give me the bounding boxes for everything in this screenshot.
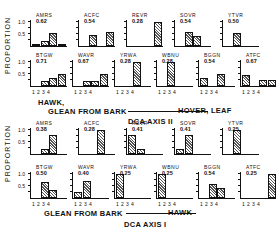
y-tick bbox=[28, 21, 31, 22]
y-tick bbox=[76, 39, 79, 40]
y-tick bbox=[28, 141, 31, 142]
bar-2 bbox=[41, 149, 49, 154]
y-tick bbox=[28, 79, 31, 80]
species-score: 0.28 bbox=[162, 58, 173, 64]
y-tick bbox=[154, 173, 157, 174]
y-tick bbox=[196, 191, 199, 192]
species-score: 0.62 bbox=[36, 18, 47, 24]
y-tick bbox=[28, 173, 31, 174]
y-tick-label: 0.5 bbox=[18, 71, 25, 77]
y-tick bbox=[28, 191, 31, 192]
y-tick bbox=[172, 129, 175, 130]
histogram-bggn bbox=[198, 60, 235, 87]
y-tick bbox=[28, 135, 31, 136]
histogram-wavr bbox=[72, 60, 109, 87]
y-tick bbox=[154, 79, 157, 80]
species-score: 0.28 bbox=[132, 18, 143, 24]
species-score: 0.50 bbox=[36, 170, 47, 176]
bar-3 bbox=[49, 78, 57, 86]
y-tick bbox=[76, 135, 79, 136]
x-tick-labels: 1234 bbox=[242, 89, 262, 95]
y-tick bbox=[28, 73, 31, 74]
y-axis-label: PROPORTION bbox=[4, 17, 11, 74]
bar-2 bbox=[137, 149, 145, 154]
y-tick bbox=[124, 147, 127, 148]
bar-4 bbox=[106, 32, 114, 46]
bar-2 bbox=[209, 184, 217, 198]
x-tick-labels: 1234 bbox=[158, 201, 178, 207]
histogram-bggn bbox=[198, 172, 235, 199]
x-tick-labels: 1234 bbox=[32, 201, 52, 207]
y-tick bbox=[238, 79, 241, 80]
y-tick bbox=[76, 141, 79, 142]
y-tick bbox=[154, 179, 157, 180]
bar-3 bbox=[49, 135, 57, 154]
y-tick bbox=[238, 191, 241, 192]
y-tick bbox=[112, 79, 115, 80]
x-tick-labels: 1234 bbox=[158, 89, 178, 95]
y-tick bbox=[112, 179, 115, 180]
species-score: 0.41 bbox=[180, 126, 191, 132]
histogram-amrs bbox=[30, 20, 67, 47]
y-tick bbox=[124, 135, 127, 136]
histogram-amrs bbox=[30, 128, 67, 155]
bar-3 bbox=[91, 81, 99, 86]
bar-2 bbox=[83, 181, 91, 198]
y-tick bbox=[76, 33, 79, 34]
histogram-atfc bbox=[240, 60, 276, 87]
y-tick bbox=[220, 129, 223, 130]
axis-left-label: GLEAN FROM BARK bbox=[44, 209, 123, 218]
bar-4 bbox=[154, 22, 162, 46]
y-tick bbox=[28, 129, 31, 130]
y-tick bbox=[28, 39, 31, 40]
y-tick-label: 0.5 bbox=[18, 183, 25, 189]
bar-4 bbox=[58, 74, 66, 86]
y-tick bbox=[196, 185, 199, 186]
histogram-sovr bbox=[174, 20, 211, 47]
y-tick bbox=[124, 33, 127, 34]
y-tick bbox=[28, 185, 31, 186]
bar-3 bbox=[97, 130, 105, 154]
histogram-sovr bbox=[174, 128, 211, 155]
bar-2 bbox=[185, 32, 193, 46]
y-tick bbox=[28, 147, 31, 148]
y-tick-label: 1.0 bbox=[18, 19, 25, 25]
y-tick bbox=[76, 27, 79, 28]
x-tick-labels: 1234 bbox=[74, 201, 94, 207]
y-axis-label: PROPORTION bbox=[4, 125, 11, 182]
bar-2 bbox=[41, 182, 49, 198]
y-tick bbox=[28, 179, 31, 180]
y-tick bbox=[28, 61, 31, 62]
axis-right-label: HOVER, LEAF bbox=[178, 106, 232, 115]
y-tick bbox=[124, 141, 127, 142]
y-tick bbox=[70, 173, 73, 174]
y-tick bbox=[28, 67, 31, 68]
axis-right-label: HAWK bbox=[168, 208, 192, 217]
histogram-atfc bbox=[240, 172, 276, 199]
species-score: 0.28 bbox=[120, 58, 131, 64]
bar-3 bbox=[259, 80, 267, 86]
y-tick-label: 0.5 bbox=[18, 31, 25, 37]
y-tick bbox=[196, 173, 199, 174]
bar-1 bbox=[158, 174, 166, 198]
bar-4 bbox=[268, 174, 276, 198]
y-tick-label: 1.0 bbox=[18, 59, 25, 65]
bar-1 bbox=[32, 44, 40, 46]
y-tick bbox=[196, 61, 199, 62]
bar-3 bbox=[193, 36, 201, 46]
species-score: 0.38 bbox=[36, 126, 47, 132]
bar-2 bbox=[233, 130, 241, 154]
y-tick bbox=[196, 79, 199, 80]
y-tick bbox=[154, 67, 157, 68]
bar-1 bbox=[116, 174, 124, 198]
y-tick-label: 1.0 bbox=[18, 127, 25, 133]
bar-1 bbox=[128, 135, 136, 154]
histogram-revr bbox=[126, 128, 163, 155]
y-tick bbox=[220, 21, 223, 22]
y-tick bbox=[238, 173, 241, 174]
y-tick bbox=[172, 141, 175, 142]
y-tick bbox=[124, 21, 127, 22]
bar-3 bbox=[49, 33, 57, 46]
y-tick bbox=[124, 27, 127, 28]
bar-2 bbox=[233, 33, 241, 46]
